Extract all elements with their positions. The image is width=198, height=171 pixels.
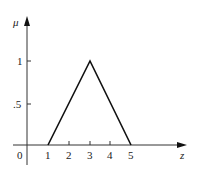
membership-curve: [48, 61, 131, 145]
y-tick-label-1: 1: [17, 56, 23, 67]
x-tick-label-3: 3: [87, 150, 93, 161]
x-tick-label-4: 4: [107, 150, 113, 161]
x-tick-label-1: 1: [45, 150, 51, 161]
x-axis-arrow-icon: [177, 142, 187, 148]
x-tick-label-5: 5: [128, 150, 134, 161]
y-tick-label-05: .5: [13, 99, 21, 110]
x-axis-label: z: [180, 150, 184, 161]
y-axis-label: μ: [13, 17, 19, 28]
plot-area: [0, 0, 198, 171]
x-tick-label-2: 2: [66, 150, 72, 161]
origin-label: 0: [17, 150, 23, 161]
y-axis-arrow-icon: [24, 16, 30, 26]
